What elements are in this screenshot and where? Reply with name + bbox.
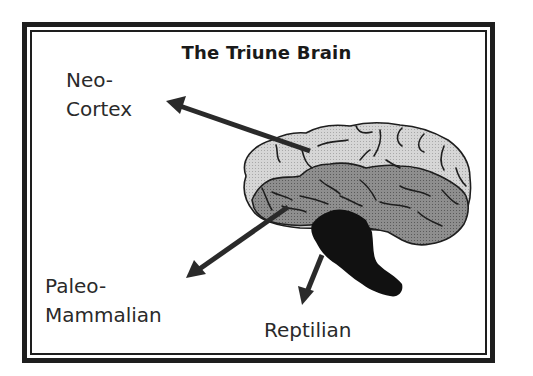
reptilian-arrow: [307, 255, 322, 292]
reptilian-label: Reptilian: [264, 316, 351, 345]
paleomammalian-label: Paleo-Mammalian: [45, 272, 162, 330]
neocortex-label-line1: Neo-: [66, 68, 113, 92]
neocortex-arrowhead: [166, 96, 186, 114]
reptilian-arrowhead: [298, 286, 314, 305]
paleomammalian-label-line1: Paleo-: [45, 274, 106, 298]
diagram-title: The Triune Brain: [0, 42, 533, 63]
neocortex-arrow: [180, 106, 310, 151]
neocortex-label-line2: Cortex: [66, 97, 132, 121]
paleomammalian-arrow: [198, 207, 288, 270]
neocortex-label: Neo-Cortex: [66, 66, 132, 124]
paleomammalian-label-line2: Mammalian: [45, 303, 162, 327]
reptilian-label-line1: Reptilian: [264, 318, 351, 342]
